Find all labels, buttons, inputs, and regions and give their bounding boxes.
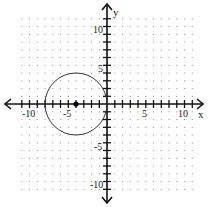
center-point <box>73 101 78 106</box>
x-axis-label: x <box>198 108 204 120</box>
y-tick-label-10: 10 <box>93 24 103 35</box>
y-axis-label: y <box>113 6 119 18</box>
y-tick-label-neg5: -5 <box>94 141 102 152</box>
y-tick-label-neg10: -10 <box>90 179 103 190</box>
coordinate-plane: -10 -5 5 10 10 5 -5 -10 x y <box>0 0 208 207</box>
x-tick-label-neg10: -10 <box>22 108 35 119</box>
x-tick-label-neg5: -5 <box>63 108 71 119</box>
x-tick-label-5: 5 <box>142 108 147 119</box>
y-tick-label-5: 5 <box>98 63 103 74</box>
x-tick-label-10: 10 <box>178 108 188 119</box>
